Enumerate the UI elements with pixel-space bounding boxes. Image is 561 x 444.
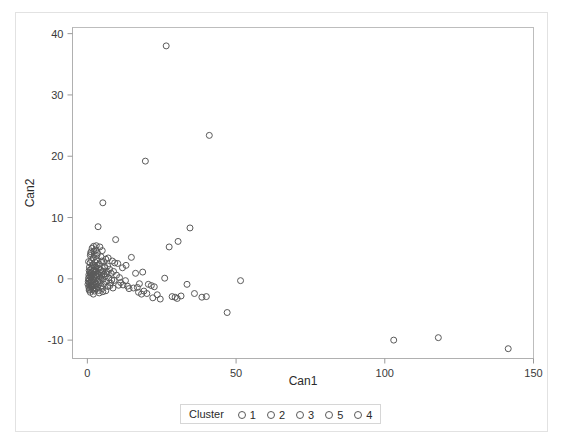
- y-tick-label: 40: [51, 28, 63, 40]
- legend-item-3[interactable]: 3: [296, 410, 314, 421]
- plot-svg: -10010203040 050100150 Can1 Can2: [0, 0, 561, 444]
- data-point: [150, 295, 156, 301]
- data-point: [95, 224, 101, 230]
- legend-item-label: 4: [366, 410, 372, 421]
- data-point: [162, 275, 168, 281]
- legend-marker-icon: [296, 411, 304, 419]
- data-point: [224, 310, 230, 316]
- data-point: [128, 254, 134, 260]
- data-point: [187, 225, 193, 231]
- legend-item-label: 1: [250, 410, 256, 421]
- data-point: [163, 43, 169, 49]
- data-point: [238, 278, 244, 284]
- data-point: [157, 296, 163, 302]
- legend-item-1[interactable]: 1: [238, 410, 256, 421]
- legend: Cluster 12354: [180, 404, 381, 424]
- x-tick-label: 100: [376, 367, 394, 379]
- data-point: [100, 200, 106, 206]
- data-point: [391, 337, 397, 343]
- y-tick-label: 0: [57, 273, 63, 285]
- legend-item-label: 2: [279, 410, 285, 421]
- data-point: [203, 294, 209, 300]
- plot-frame: [73, 28, 534, 359]
- x-tick-label: 150: [524, 367, 542, 379]
- scatter-plot-canvas: -10010203040 050100150 Can1 Can2 Cluster…: [0, 0, 561, 444]
- data-point: [175, 238, 181, 244]
- data-point: [140, 269, 146, 275]
- legend-title: Cluster: [189, 408, 224, 420]
- y-tick-label: 30: [51, 89, 63, 101]
- data-point: [133, 270, 139, 276]
- legend-marker-icon: [238, 411, 246, 419]
- legend-marker-icon: [325, 411, 333, 419]
- legend-item-label: 5: [337, 410, 343, 421]
- y-tick-label: 10: [51, 212, 63, 224]
- y-tick-label: -10: [48, 334, 64, 346]
- data-point: [206, 132, 212, 138]
- legend-item-4[interactable]: 4: [354, 410, 372, 421]
- data-point: [435, 335, 441, 341]
- y-tick-label: 20: [51, 150, 63, 162]
- y-axis-title: Can2: [23, 178, 37, 207]
- x-axis-title: Can1: [289, 374, 318, 388]
- legend-marker-icon: [354, 411, 362, 419]
- data-point: [113, 237, 119, 243]
- legend-marker-icon: [267, 411, 275, 419]
- data-point: [142, 158, 148, 164]
- legend-item-2[interactable]: 2: [267, 410, 285, 421]
- y-axis: -10010203040: [48, 28, 73, 359]
- legend-entries: 12354: [238, 405, 373, 423]
- data-point: [184, 281, 190, 287]
- data-points: [85, 43, 511, 352]
- x-tick-label: 0: [84, 367, 90, 379]
- x-tick-label: 50: [230, 367, 242, 379]
- legend-item-label: 3: [308, 410, 314, 421]
- data-point: [166, 244, 172, 250]
- legend-item-5[interactable]: 5: [325, 410, 343, 421]
- data-point: [505, 346, 511, 352]
- data-point: [191, 291, 197, 297]
